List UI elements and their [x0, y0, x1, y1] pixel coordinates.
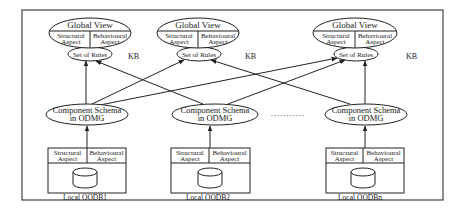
local-db-label: Local OODBn	[338, 193, 382, 202]
component-schema-3: Component Schema in ODMG	[325, 104, 407, 125]
more-schemas-ellipsis: ...........	[271, 108, 305, 118]
database-cylinder-icon	[351, 168, 375, 188]
structural-aspect-label-line2: Aspect	[58, 155, 77, 163]
structural-aspect-label-line2: Aspect	[180, 155, 199, 163]
database-cylinder-icon	[73, 168, 97, 188]
connection-arrows	[86, 58, 365, 148]
kb-label: KB	[406, 52, 417, 61]
component-schema-label-line2: in ODMG	[70, 113, 105, 123]
kb-label: KB	[245, 52, 256, 61]
component-schema-2: Component Schema in ODMG	[172, 104, 258, 125]
kb-label: KB	[128, 52, 139, 61]
global-view-title: Global View	[175, 20, 221, 30]
local-db-label: Local OODB2	[186, 193, 230, 202]
set-of-rules-label: Set of Rules	[339, 51, 373, 59]
local-db-label: Local OODB1	[63, 193, 107, 202]
local-database-1: Structural Aspect Behavioural Aspect Loc…	[48, 148, 126, 202]
arrow-cs3-to-rules2	[211, 60, 350, 104]
arrow-cs2-to-rules1	[96, 61, 203, 104]
behavioural-aspect-label-line2: Aspect	[220, 155, 239, 163]
knowledge-base-2: Set of Rules Global View Structural Aspe…	[157, 18, 256, 61]
arrow-cs1-to-rules3	[100, 58, 337, 105]
set-of-rules-label: Set of Rules	[73, 51, 107, 59]
knowledge-base-3: Set of Rules Global View Structural Aspe…	[313, 18, 417, 61]
set-of-rules-label: Set of Rules	[182, 51, 216, 59]
structural-aspect-label-line2: Aspect	[169, 38, 188, 46]
structural-aspect-label-line2: Aspect	[335, 155, 354, 163]
local-database-n: Structural Aspect Behavioural Aspect Loc…	[326, 148, 404, 202]
database-cylinder-icon	[198, 168, 222, 188]
behavioural-aspect-label-line2: Aspect	[208, 38, 227, 46]
local-database-2: Structural Aspect Behavioural Aspect Loc…	[171, 148, 250, 202]
behavioural-aspect-label-line2: Aspect	[374, 155, 393, 163]
global-view-title: Global View	[332, 20, 378, 30]
component-schema-label-line2: in ODMG	[198, 113, 233, 123]
behavioural-aspect-label-line2: Aspect	[100, 38, 119, 46]
structural-aspect-label-line2: Aspect	[326, 38, 345, 46]
federated-database-architecture-diagram: Set of Rules Global View Structural Aspe…	[0, 0, 464, 215]
arrow-cs2-to-rules3	[228, 60, 345, 104]
global-view-title: Global View	[67, 20, 113, 30]
component-schema-label-line2: in ODMG	[349, 113, 384, 123]
behavioural-aspect-label-line2: Aspect	[97, 155, 116, 163]
knowledge-base-1: Set of Rules Global View Structural Aspe…	[49, 18, 139, 61]
component-schema-1: Component Schema in ODMG	[46, 104, 128, 125]
structural-aspect-label-line2: Aspect	[61, 38, 80, 46]
behavioural-aspect-label-line2: Aspect	[365, 38, 384, 46]
